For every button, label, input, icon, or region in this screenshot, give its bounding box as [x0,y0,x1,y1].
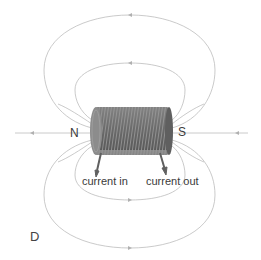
south-pole-label: S [178,126,186,138]
arrow-icon [128,61,132,65]
solenoid-diagram [0,0,261,260]
arrow-icon [128,198,132,202]
current-leads [95,153,167,177]
current-in-label: current in [82,176,128,187]
arrow-icon [30,131,34,135]
solenoid-coil [90,107,173,155]
arrow-icon [128,246,132,250]
arrow-icon [128,13,132,17]
arrow-icon [235,131,239,135]
coil-right-end [165,107,173,155]
lead-out-arrow-icon [162,167,167,175]
north-pole-label: N [70,127,79,139]
figure-caption: D [30,230,39,243]
current-out-label: current out [146,176,199,187]
